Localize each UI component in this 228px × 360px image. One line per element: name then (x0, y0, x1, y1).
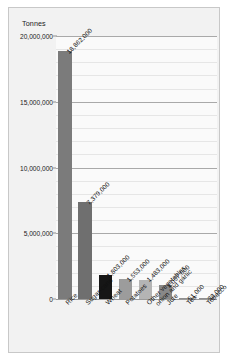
gridline-minor (56, 154, 217, 155)
y-tick-label: 20,000,000 (20, 33, 53, 40)
bar (58, 51, 72, 299)
y-tick-label: 10,000,000 (20, 164, 53, 171)
gridline-minor (56, 194, 217, 195)
x-axis-category-labels: RiceSugar-caneWheatPotatoesOther vegetab… (56, 301, 217, 360)
plot-area: 18,862,0007,379,0001,803,0001,553,0001,4… (56, 36, 217, 299)
gridline-minor (56, 128, 217, 129)
chart-frame: Tonnes 05,000,00010,000,00015,000,00020,… (8, 7, 220, 353)
bar-value-label: 18,862,000 (65, 27, 93, 55)
gridline-major (56, 102, 217, 103)
y-axis-tick-labels: 05,000,00010,000,00015,000,00020,000,000 (9, 36, 53, 299)
y-axis-title: Tonnes (22, 19, 46, 28)
gridline-minor (56, 141, 217, 142)
gridline-minor (56, 62, 217, 63)
y-tick-label: 5,000,000 (24, 230, 53, 237)
gridline-minor (56, 89, 217, 90)
gridline-minor (56, 75, 217, 76)
bar (78, 202, 92, 299)
gridline-minor (56, 115, 217, 116)
gridline-minor (56, 181, 217, 182)
gridline-minor (56, 49, 217, 50)
gridline-major (56, 168, 217, 169)
y-tick-label: 15,000,000 (20, 98, 53, 105)
